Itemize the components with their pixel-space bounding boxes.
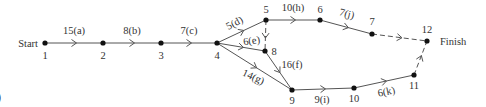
node-number: 3 — [158, 50, 163, 61]
dummy-activity-line — [414, 41, 427, 75]
activity-label: 6(e) — [242, 34, 261, 48]
node-number: 5 — [263, 4, 268, 15]
start-label: Start — [18, 38, 38, 49]
activity-line — [265, 51, 292, 90]
event-node-7 — [369, 31, 374, 36]
event-node-2 — [100, 40, 105, 45]
node-number: 6 — [317, 4, 322, 15]
arrow-icon — [262, 33, 269, 38]
node-number: 4 — [214, 50, 220, 61]
event-node-3 — [158, 40, 163, 45]
edge-8-9 — [265, 51, 292, 90]
activity-label: 8(b) — [123, 25, 141, 37]
activity-label: 7(c) — [181, 25, 198, 37]
event-node-4 — [214, 40, 219, 45]
node-number: 2 — [100, 50, 105, 61]
edge-1-2 — [45, 40, 103, 47]
labels-layer: 15(a)8(b)7(c)5(d)6(e)16(f)14(g)10(h)9(i)… — [42, 2, 432, 106]
activity-network-diagram: 15(a)8(b)7(c)5(d)6(e)16(f)14(g)10(h)9(i)… — [0, 0, 486, 107]
edge-6-7 — [320, 20, 372, 34]
activity-label: 10(h) — [282, 2, 305, 14]
edge-7-12 — [372, 34, 427, 41]
event-node-1 — [42, 40, 47, 45]
activity-line — [292, 88, 354, 90]
activity-line — [320, 20, 372, 34]
node-number: 11 — [409, 80, 419, 91]
node-number: 10 — [349, 93, 360, 104]
node-number: 1 — [42, 50, 47, 61]
node-number: 7 — [369, 16, 374, 27]
node-number: 8 — [271, 46, 276, 57]
partial-caption-glyph: ) — [0, 89, 1, 104]
finish-label: Finish — [440, 36, 467, 47]
event-node-5 — [263, 17, 268, 22]
node-number: 9 — [289, 95, 294, 106]
activity-label: 7(j) — [338, 6, 356, 22]
edge-11-12 — [414, 41, 427, 75]
event-node-8 — [262, 48, 267, 53]
activity-label: 9(i) — [314, 94, 330, 106]
edge-2-3 — [103, 40, 161, 47]
arrow-icon — [416, 56, 423, 62]
activity-label: 6(k) — [377, 84, 397, 99]
event-node-9 — [289, 87, 294, 92]
activity-label: 16(f) — [282, 59, 303, 71]
edge-3-4 — [161, 40, 217, 47]
activity-label: 14(g) — [240, 67, 266, 87]
edge-5-8 — [262, 20, 269, 51]
node-number: 12 — [422, 24, 433, 35]
dummy-activity-line — [265, 20, 266, 51]
event-node-10 — [351, 85, 356, 90]
activity-label: 15(a) — [63, 25, 86, 37]
edge-9-10 — [292, 86, 354, 93]
event-node-6 — [317, 17, 322, 22]
event-node-11 — [411, 72, 416, 77]
event-node-12 — [424, 38, 429, 43]
edge-5-6 — [266, 17, 320, 24]
